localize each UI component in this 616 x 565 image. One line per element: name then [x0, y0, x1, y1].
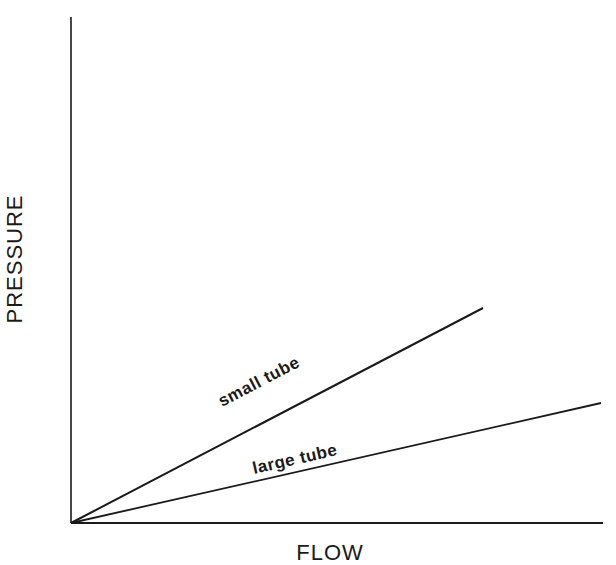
large-tube-line: [71, 403, 601, 523]
x-axis-label: FLOW: [296, 540, 364, 565]
y-axis-label: PRESSURE: [2, 194, 27, 323]
chart: small tube large tube PRESSURE FLOW: [0, 0, 616, 565]
small-tube-line: [71, 308, 483, 523]
small-tube-label: small tube: [215, 353, 303, 411]
